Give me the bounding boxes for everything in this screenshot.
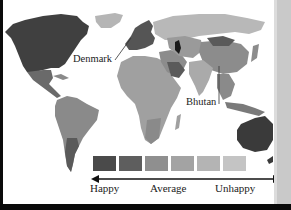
bottom-border bbox=[0, 204, 291, 210]
legend-label-happy: Happy bbox=[90, 182, 119, 194]
region-new-zealand bbox=[267, 156, 273, 164]
region-madagascar bbox=[175, 114, 181, 130]
region-japan bbox=[251, 44, 259, 62]
region-india bbox=[189, 60, 213, 96]
region-greenland bbox=[95, 13, 123, 28]
legend-swatch-2 bbox=[119, 156, 142, 171]
region-se-asia bbox=[217, 74, 235, 100]
legend-label-unhappy: Unhappy bbox=[215, 182, 255, 194]
region-central-america bbox=[27, 70, 61, 98]
bhutan-label: Bhutan bbox=[186, 96, 216, 107]
region-europe bbox=[125, 20, 155, 50]
happiness-legend bbox=[93, 156, 246, 171]
region-caribbean bbox=[53, 74, 69, 80]
map-page: Denmark Bhutan Happy Average Unhappy bbox=[3, 0, 274, 204]
region-australia bbox=[237, 116, 273, 152]
legend-swatch-3 bbox=[145, 156, 168, 171]
right-margin-strip bbox=[274, 0, 291, 204]
legend-swatch-5 bbox=[197, 156, 220, 171]
denmark-label: Denmark bbox=[73, 53, 112, 64]
legend-label-average: Average bbox=[150, 182, 186, 194]
region-indonesia bbox=[225, 102, 265, 116]
region-russia bbox=[153, 14, 265, 40]
legend-swatch-4 bbox=[171, 156, 194, 171]
region-argentina bbox=[65, 138, 79, 172]
legend-swatch-6 bbox=[223, 156, 246, 171]
world-map bbox=[3, 0, 274, 204]
legend-swatch-1 bbox=[93, 156, 116, 171]
region-southern-africa bbox=[145, 118, 161, 144]
